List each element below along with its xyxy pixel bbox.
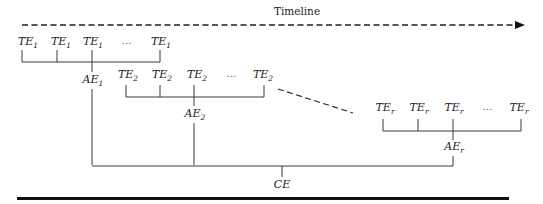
ae-r-label: AEr [443, 140, 464, 155]
group-1-items: TE1 TE1 TE1 … TE1 [18, 35, 171, 50]
timeline-label: Timeline [274, 5, 320, 17]
continuation-dashed-line [278, 89, 353, 113]
te-2-item: TE2 [187, 68, 207, 83]
group-2-bracket [126, 85, 264, 106]
event-hierarchy-diagram: Timeline TE1 TE1 TE1 … TE1 AE1 TE2 TE2 T… [0, 0, 543, 204]
ellipsis: … [483, 101, 494, 112]
ce-label: CE [274, 178, 290, 191]
te-1-item: TE1 [83, 35, 103, 50]
te-1-item: TE1 [151, 35, 171, 50]
te-1-item: TE1 [51, 35, 71, 50]
ellipsis: … [227, 68, 238, 79]
te-r-item: TEr [445, 101, 464, 116]
ae-2-label: AE2 [184, 107, 206, 122]
te-2-item: TE2 [118, 68, 138, 83]
te-1-item: TE1 [18, 35, 38, 50]
group-1-bracket [22, 50, 160, 72]
ae-1-label: AE1 [82, 73, 104, 88]
te-2-item: TE2 [253, 68, 273, 83]
group-r-bracket [383, 119, 521, 140]
te-r-item: TEr [410, 101, 429, 116]
group-r-items: TEr TEr TEr … TEr [376, 101, 529, 116]
combined-bracket [92, 166, 453, 177]
ellipsis: … [122, 35, 133, 46]
te-r-item: TEr [376, 101, 395, 116]
te-2-item: TE2 [152, 68, 172, 83]
group-2-items: TE2 TE2 TE2 … TE2 [118, 68, 273, 83]
te-r-item: TEr [510, 101, 529, 116]
bottom-rule [17, 197, 509, 200]
